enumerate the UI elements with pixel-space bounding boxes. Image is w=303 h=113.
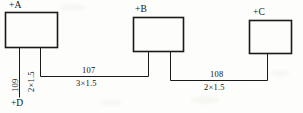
box-b xyxy=(134,18,184,52)
box-a xyxy=(6,13,58,48)
box-c xyxy=(250,21,292,54)
box-b-label: +B xyxy=(135,5,147,15)
wire-107-spec: 3×1.5 xyxy=(76,79,97,88)
wire-108-spec: 2×1.5 xyxy=(204,83,225,92)
wire-107-number: 107 xyxy=(82,66,95,75)
box-a-label: +A xyxy=(9,1,21,11)
wire-109-spec: 2×1.5 xyxy=(27,71,36,92)
wire-108-number: 108 xyxy=(210,70,223,79)
terminal-d-label: +D xyxy=(11,99,23,109)
box-c-label: +C xyxy=(253,8,265,18)
wiring-diagram: +A +B +C +D 109 2×1.5 107 3×1.5 108 2×1.… xyxy=(0,0,303,113)
wire-109-number: 109 xyxy=(11,79,20,92)
